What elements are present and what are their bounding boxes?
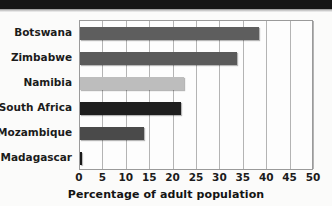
x-tick-45: 45	[282, 171, 297, 183]
x-axis-title: Percentage of adult population	[0, 188, 332, 201]
bar-botswana	[80, 27, 259, 40]
bar-row	[80, 146, 314, 171]
bar-row	[80, 21, 314, 46]
chart-screenshot: BotswanaZimbabweNamibiaSouth AfricaMozam…	[0, 0, 332, 206]
x-tick-40: 40	[259, 171, 274, 183]
bar-row	[80, 46, 314, 71]
x-tick-25: 25	[189, 171, 204, 183]
category-label-botswana: Botswana	[14, 20, 72, 45]
x-tick-35: 35	[235, 171, 250, 183]
bar-namibia	[80, 77, 184, 90]
bar-row	[80, 96, 314, 121]
category-axis-labels: BotswanaZimbabweNamibiaSouth AfricaMozam…	[0, 20, 76, 170]
bar-zimbabwe	[80, 52, 237, 65]
bar-series	[80, 21, 312, 169]
category-label-namibia: Namibia	[23, 70, 72, 95]
bar-madagascar	[80, 152, 82, 165]
x-tick-5: 5	[99, 171, 106, 183]
page-top-dark-band	[0, 0, 332, 9]
bar-mozambique	[80, 127, 144, 140]
bar-south-africa	[80, 102, 181, 115]
x-tick-10: 10	[118, 171, 133, 183]
category-label-mozambique: Mozambique	[0, 120, 72, 145]
category-label-zimbabwe: Zimbabwe	[11, 45, 72, 70]
x-tick-15: 15	[142, 171, 157, 183]
x-tick-20: 20	[165, 171, 180, 183]
x-tick-50: 50	[306, 171, 321, 183]
x-tick-30: 30	[212, 171, 227, 183]
plot-area	[79, 20, 313, 170]
bar-row	[80, 121, 314, 146]
category-label-south-africa: South Africa	[0, 95, 72, 120]
bar-row	[80, 71, 314, 96]
category-label-madagascar: Madagascar	[1, 145, 72, 170]
x-axis-tick-labels: 05101520253035404550	[0, 171, 332, 187]
x-tick-0: 0	[75, 171, 82, 183]
bar-chart: BotswanaZimbabweNamibiaSouth AfricaMozam…	[0, 12, 332, 206]
